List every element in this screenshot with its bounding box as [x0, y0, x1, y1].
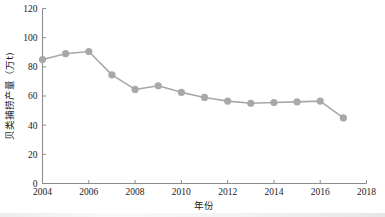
data-point-marker: [39, 56, 46, 63]
y-tick-label: 60: [28, 91, 38, 101]
data-point-marker: [155, 82, 162, 89]
data-point-marker: [317, 98, 324, 105]
data-point-marker: [108, 71, 115, 78]
data-point-marker: [293, 98, 300, 105]
data-point-marker: [340, 114, 347, 121]
data-point-marker: [178, 89, 185, 96]
x-tick-label: 2012: [218, 187, 237, 197]
line-chart: 020406080100120 200420062008201020122014…: [0, 0, 385, 217]
data-point-marker: [201, 94, 208, 101]
y-tick-labels: 020406080100120: [23, 4, 38, 189]
x-tick-label: 2014: [264, 187, 283, 197]
x-tick-labels: 20042006200820102012201420162018: [33, 187, 376, 197]
data-point-marker: [62, 50, 69, 57]
y-tick-label: 20: [28, 150, 38, 160]
x-tick-label: 2008: [126, 187, 145, 197]
data-point-marker: [224, 98, 231, 105]
x-tick-label: 2004: [33, 187, 52, 197]
y-axis-title: 贝类捕捞产量（万t): [4, 52, 15, 139]
x-tick-label: 2010: [172, 187, 191, 197]
series-line-shellfish-catch: [43, 52, 344, 118]
x-tick-label: 2006: [79, 187, 98, 197]
x-tick-label: 2016: [311, 187, 330, 197]
data-point-marker: [131, 86, 138, 93]
y-tick-label: 40: [28, 121, 38, 131]
data-point-marker: [247, 100, 254, 107]
y-tick-label: 80: [28, 62, 38, 72]
x-axis-title: 年份: [194, 200, 214, 211]
y-tick-label: 100: [23, 33, 38, 43]
series-markers: [39, 48, 347, 122]
x-tick-label: 2018: [357, 187, 376, 197]
chart-figure: 020406080100120 200420062008201020122014…: [0, 0, 385, 217]
data-point-marker: [270, 99, 277, 106]
y-tick-label: 120: [23, 4, 38, 14]
data-point-marker: [85, 48, 92, 55]
